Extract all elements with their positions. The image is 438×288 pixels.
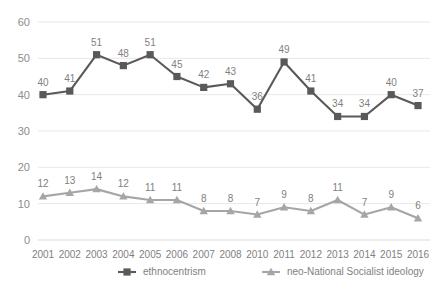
y-tick-label-0: 0 [24, 234, 30, 246]
data-label-1-2: 14 [91, 171, 103, 182]
data-label-0-0: 40 [37, 77, 49, 88]
y-tick-label-10: 10 [18, 198, 30, 210]
marker-1-11 [333, 196, 341, 203]
marker-0-11 [334, 113, 341, 120]
data-label-0-12: 34 [359, 98, 371, 109]
x-tick-label-2014: 2014 [353, 249, 376, 260]
x-tick-label-2001: 2001 [32, 249, 55, 260]
data-label-0-1: 41 [64, 73, 76, 84]
marker-0-3 [120, 62, 127, 69]
data-label-1-9: 9 [281, 189, 287, 200]
data-label-0-9: 49 [279, 44, 291, 55]
data-label-1-8: 7 [255, 197, 261, 208]
data-label-1-4: 11 [145, 182, 156, 193]
line-chart: 0102030405060 20012002200320042005200620… [0, 0, 438, 288]
legend-label-0: ethnocentrism [143, 266, 206, 277]
y-axis-tick-labels: 0102030405060 [18, 16, 30, 246]
data-label-1-6: 8 [201, 193, 207, 204]
data-label-1-10: 8 [308, 193, 314, 204]
marker-0-8 [254, 106, 261, 113]
x-tick-label-2008: 2008 [219, 249, 242, 260]
data-label-1-13: 9 [388, 189, 394, 200]
marker-0-14 [414, 102, 421, 109]
marker-0-10 [307, 87, 314, 94]
data-label-1-14: 6 [415, 200, 421, 211]
y-tick-label-40: 40 [18, 89, 30, 101]
legend-marker-0 [123, 268, 130, 275]
marker-0-6 [200, 84, 207, 91]
data-label-1-5: 11 [172, 182, 183, 193]
data-label-0-5: 45 [171, 59, 183, 70]
marker-0-0 [39, 91, 46, 98]
marker-0-5 [173, 73, 180, 80]
x-axis-tick-labels: 2001200220032004200520062007200820102011… [32, 249, 430, 260]
marker-0-9 [280, 58, 287, 65]
data-label-0-7: 43 [225, 66, 237, 77]
data-label-0-3: 48 [118, 48, 130, 59]
data-label-1-0: 12 [37, 178, 49, 189]
chart-canvas: 0102030405060 20012002200320042005200620… [0, 0, 438, 288]
marker-0-12 [361, 113, 368, 120]
data-label-1-3: 12 [118, 178, 130, 189]
data-label-0-4: 51 [145, 37, 157, 48]
x-tick-label-2003: 2003 [85, 249, 108, 260]
data-label-0-13: 40 [386, 77, 398, 88]
data-label-1-12: 7 [362, 197, 368, 208]
x-tick-label-2016: 2016 [407, 249, 430, 260]
y-tick-label-60: 60 [18, 16, 30, 28]
marker-1-13 [387, 203, 395, 210]
x-tick-label-2002: 2002 [59, 249, 82, 260]
marker-0-13 [388, 91, 395, 98]
x-tick-label-2013: 2013 [327, 249, 350, 260]
x-tick-label-2012: 2012 [300, 249, 323, 260]
marker-0-7 [227, 80, 234, 87]
x-tick-label-2007: 2007 [193, 249, 216, 260]
data-label-1-1: 13 [64, 175, 76, 186]
x-tick-label-2004: 2004 [112, 249, 135, 260]
data-label-1-11: 11 [332, 182, 343, 193]
marker-0-1 [66, 87, 73, 94]
marker-0-4 [147, 51, 154, 58]
data-label-1-7: 8 [228, 193, 234, 204]
data-label-0-2: 51 [91, 37, 103, 48]
data-label-0-8: 36 [252, 91, 264, 102]
x-tick-label-2015: 2015 [380, 249, 403, 260]
data-label-0-14: 37 [412, 88, 424, 99]
data-labels-layer: 4041514851454243364941343440371213141211… [37, 37, 424, 212]
data-label-0-11: 34 [332, 98, 344, 109]
data-label-0-6: 42 [198, 69, 210, 80]
chart-legend: ethnocentrismneo-National Socialist ideo… [118, 266, 424, 277]
y-tick-label-20: 20 [18, 161, 30, 173]
x-tick-label-2011: 2011 [273, 249, 295, 260]
x-tick-label-2005: 2005 [139, 249, 162, 260]
y-tick-label-30: 30 [18, 125, 30, 137]
x-tick-label-2010: 2010 [246, 249, 269, 260]
data-label-0-10: 41 [305, 73, 317, 84]
marker-0-2 [93, 51, 100, 58]
x-tick-label-2006: 2006 [166, 249, 189, 260]
legend-label-1: neo-National Socialist ideology [287, 266, 424, 277]
y-tick-label-50: 50 [18, 52, 30, 64]
